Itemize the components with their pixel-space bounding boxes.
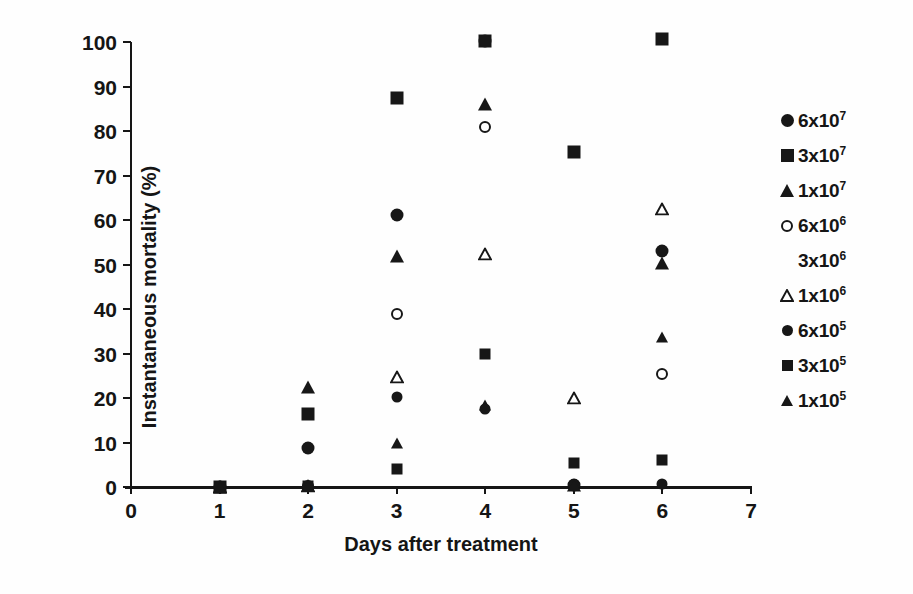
data-point	[568, 480, 580, 491]
x-tick-label: 2	[302, 500, 314, 521]
data-point	[480, 348, 491, 359]
figure-canvas: Instantaneous mortality (%) 010203040506…	[0, 0, 913, 594]
y-tick: 30	[123, 353, 131, 355]
y-tick: 20	[123, 397, 131, 399]
x-tick	[750, 486, 752, 494]
y-tick: 10	[123, 442, 131, 444]
data-point	[301, 381, 315, 394]
legend-marker-circle-filled-icon	[776, 113, 798, 129]
y-tick-label: 80	[94, 121, 117, 142]
data-point	[302, 442, 315, 455]
y-tick-label: 40	[94, 299, 117, 320]
x-tick-label: 3	[391, 500, 403, 521]
y-tick-label: 100	[82, 32, 117, 53]
data-point	[214, 482, 226, 493]
data-point	[391, 308, 403, 320]
data-point	[480, 403, 491, 414]
data-point	[390, 208, 403, 221]
data-point	[478, 247, 492, 260]
data-point	[302, 480, 314, 491]
legend-marker-triangle-open-icon	[776, 288, 798, 304]
legend-item-label: 1x105	[798, 390, 846, 412]
x-tick-label: 0	[125, 500, 137, 521]
y-tick: 100	[123, 41, 131, 43]
data-point	[478, 98, 492, 111]
y-tick-label: 0	[105, 477, 117, 498]
x-tick	[396, 486, 398, 494]
data-point	[655, 257, 669, 270]
x-tick	[484, 486, 486, 494]
legend-item-label: 6x107	[798, 110, 846, 132]
legend-item-label: 3x105	[798, 355, 846, 377]
legend-marker-square-filled-sm-icon	[776, 358, 798, 374]
legend-marker-triangle-filled-sm-icon	[776, 393, 798, 409]
legend-marker-missing-icon	[776, 253, 798, 269]
legend-item-6x105[interactable]: 6x105	[776, 313, 911, 348]
x-tick	[130, 486, 132, 494]
x-tick-label: 4	[479, 500, 491, 521]
legend-item-3x107[interactable]: 3x107	[776, 138, 911, 173]
y-tick-label: 70	[94, 165, 117, 186]
data-point	[656, 368, 668, 380]
data-point	[390, 370, 404, 383]
plot-area: 0102030405060708090100 01234567	[131, 42, 751, 487]
legend-item-label: 1x107	[798, 180, 846, 202]
legend-item-label: 3x106	[798, 250, 846, 272]
legend-item-1x105[interactable]: 1x105	[776, 383, 911, 418]
y-tick-label: 20	[94, 388, 117, 409]
y-tick: 90	[123, 86, 131, 88]
legend-item-label: 1x106	[798, 285, 846, 307]
data-point	[390, 91, 403, 104]
legend-item-3x105[interactable]: 3x105	[776, 348, 911, 383]
y-tick: 70	[123, 175, 131, 177]
legend-item-3x106[interactable]: 3x106	[776, 243, 911, 278]
y-tick-label: 50	[94, 254, 117, 275]
data-point	[302, 408, 315, 421]
legend-item-1x107[interactable]: 1x107	[776, 173, 911, 208]
y-tick: 60	[123, 219, 131, 221]
data-point	[656, 33, 669, 46]
legend: 6x1073x1071x1076x1063x1061x1066x1053x105…	[776, 103, 911, 418]
legend-item-label: 3x107	[798, 145, 846, 167]
x-tick-label: 1	[214, 500, 226, 521]
legend-item-1x106[interactable]: 1x106	[776, 278, 911, 313]
y-tick: 80	[123, 130, 131, 132]
data-point	[655, 202, 669, 215]
y-tick: 50	[123, 264, 131, 266]
data-point	[567, 391, 581, 404]
data-point	[567, 146, 580, 159]
legend-marker-square-filled-icon	[776, 148, 798, 164]
y-tick-label: 90	[94, 76, 117, 97]
legend-marker-triangle-filled-icon	[776, 183, 798, 199]
data-point	[479, 34, 492, 47]
x-tick-label: 6	[657, 500, 669, 521]
y-tick-label: 10	[94, 432, 117, 453]
data-point	[391, 392, 402, 403]
legend-item-6x106[interactable]: 6x106	[776, 208, 911, 243]
legend-item-label: 6x106	[798, 215, 846, 237]
data-point	[390, 249, 404, 262]
legend-item-label: 6x105	[798, 320, 846, 342]
data-point	[479, 121, 491, 133]
data-point	[657, 455, 668, 466]
x-tick-label: 7	[745, 500, 757, 521]
data-point	[656, 332, 668, 343]
y-tick-label: 60	[94, 210, 117, 231]
data-point	[657, 478, 668, 489]
legend-marker-circle-open-icon	[776, 218, 798, 234]
x-tick-label: 5	[568, 500, 580, 521]
y-tick-label: 30	[94, 343, 117, 364]
legend-marker-circle-filled-sm-icon	[776, 323, 798, 339]
y-tick: 40	[123, 308, 131, 310]
data-point	[391, 464, 402, 475]
data-point	[568, 457, 579, 468]
data-point	[391, 438, 403, 449]
x-axis-title: Days after treatment	[131, 533, 751, 556]
legend-item-6x107[interactable]: 6x107	[776, 103, 911, 138]
